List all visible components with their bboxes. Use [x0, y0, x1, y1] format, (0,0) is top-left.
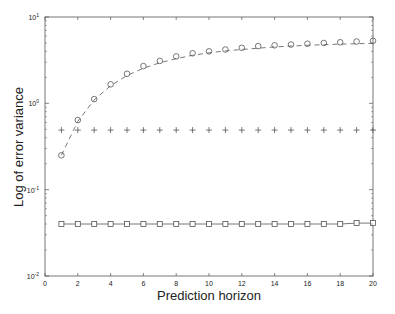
x-tick-label: 8: [174, 280, 178, 287]
y-tick-label: 100: [28, 98, 39, 107]
x-tick-label: 20: [369, 280, 377, 287]
square-marker: [174, 222, 179, 227]
circle-marker: [223, 47, 229, 53]
square-marker: [190, 222, 195, 227]
x-tick-label: 2: [76, 280, 80, 287]
chart-svg: 02468101214161820 10110010-110-2 Predict…: [0, 0, 395, 314]
square-marker: [321, 222, 326, 227]
square-marker: [272, 222, 277, 227]
plus-marker: [354, 127, 360, 133]
plus-marker: [239, 127, 245, 133]
square-marker: [59, 222, 64, 227]
circle-marker: [59, 153, 65, 159]
circle-marker: [157, 58, 163, 64]
circle-marker: [305, 41, 311, 47]
square-marker: [141, 222, 146, 227]
y-axis-label: Log of error variance: [11, 87, 26, 207]
plus-marker: [288, 127, 294, 133]
x-tick-label: 4: [109, 280, 113, 287]
x-tick-label: 0: [43, 280, 47, 287]
plus-marker: [272, 127, 278, 133]
x-tick-label: 14: [271, 280, 279, 287]
plus-marker: [255, 127, 261, 133]
x-tick-label: 6: [141, 280, 145, 287]
circle-marker: [108, 82, 114, 88]
plus-marker: [108, 127, 114, 133]
y-tick-label: 101: [28, 12, 39, 21]
circle-marker: [141, 63, 147, 69]
plus-marker: [75, 127, 81, 133]
square-marker: [92, 222, 97, 227]
y-axis: 10110010-110-2: [27, 12, 373, 280]
plus-marker: [321, 127, 327, 133]
plot-frame: [45, 17, 373, 276]
x-axis-label: Prediction horizon: [157, 288, 261, 303]
x-tick-label: 18: [336, 280, 344, 287]
square-marker: [75, 222, 80, 227]
plus-marker: [124, 127, 130, 133]
plus-marker: [337, 127, 343, 133]
square-marker: [289, 222, 294, 227]
x-tick-label: 16: [304, 280, 312, 287]
plus-marker: [222, 127, 228, 133]
square-marker: [371, 221, 376, 226]
x-tick-label: 12: [238, 280, 246, 287]
plus-marker: [91, 127, 97, 133]
plot-area: [45, 17, 376, 276]
square-marker: [125, 222, 130, 227]
square-marker: [207, 222, 212, 227]
square-marker: [256, 222, 261, 227]
x-axis: 02468101214161820: [43, 17, 377, 287]
plus-marker: [370, 127, 376, 133]
series-line-dashed-fit: [61, 43, 373, 155]
x-tick-label: 10: [205, 280, 213, 287]
plus-marker: [206, 127, 212, 133]
plus-marker: [157, 127, 163, 133]
square-marker: [305, 222, 310, 227]
circle-marker: [124, 71, 130, 77]
square-marker: [239, 222, 244, 227]
plus-marker: [304, 127, 310, 133]
plus-marker: [190, 127, 196, 133]
plus-marker: [140, 127, 146, 133]
y-tick-label: 10-2: [27, 271, 39, 280]
plus-marker: [58, 127, 64, 133]
plus-marker: [173, 127, 179, 133]
square-marker: [338, 222, 343, 227]
y-tick-label: 10-1: [27, 185, 39, 194]
square-marker: [223, 222, 228, 227]
square-marker: [157, 222, 162, 227]
square-marker: [354, 221, 359, 226]
circle-marker: [91, 96, 97, 102]
square-marker: [108, 222, 113, 227]
